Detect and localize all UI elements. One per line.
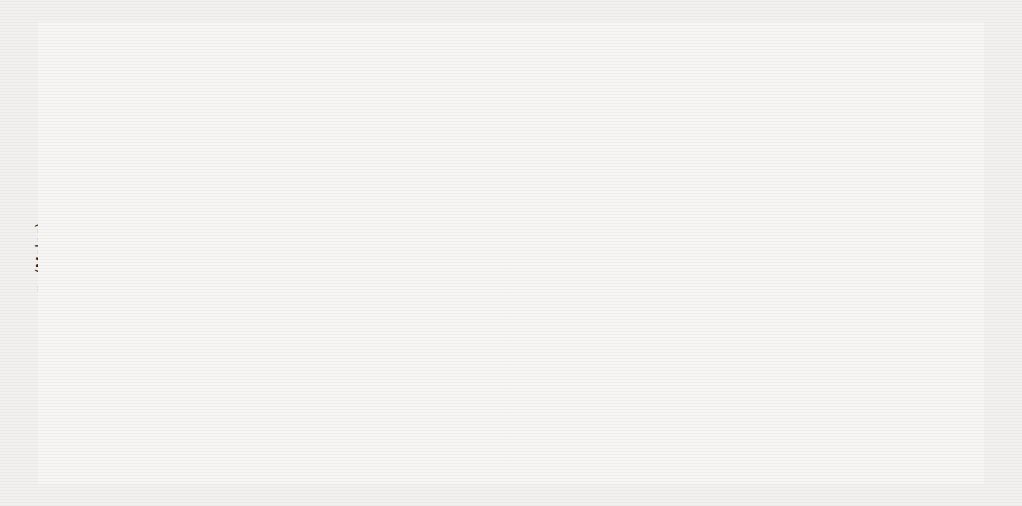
figure-paper	[38, 22, 984, 484]
figure-root: Southern Asia0.00.10.20.30.40.5199019952…	[0, 0, 1022, 506]
